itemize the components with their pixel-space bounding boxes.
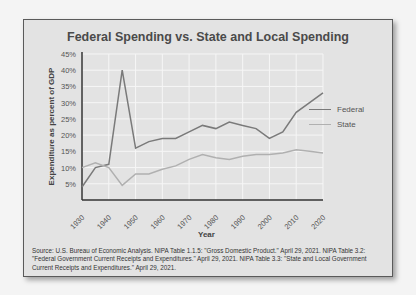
x-tick-label: 2010 xyxy=(282,213,300,231)
x-tick-label: 2000 xyxy=(256,213,274,231)
legend: Federal State xyxy=(309,102,364,132)
x-tick-label: 1950 xyxy=(122,213,140,231)
legend-label: State xyxy=(337,120,356,129)
x-tick-label: 1930 xyxy=(68,213,86,231)
x-tick-label: 1970 xyxy=(175,213,193,231)
y-tick-label: 30% xyxy=(61,99,76,108)
x-tick-label: 1960 xyxy=(149,213,167,231)
series-line-federal xyxy=(82,70,323,187)
x-tick-label: 1990 xyxy=(229,213,247,231)
y-tick-label: 15% xyxy=(61,147,76,156)
x-tick-label: 2020 xyxy=(309,213,327,231)
y-tick-label: 20% xyxy=(61,131,76,140)
legend-swatch xyxy=(309,109,331,111)
y-axis-label: Expenditure as percent of GDP xyxy=(47,57,56,197)
y-tick-label: 35% xyxy=(61,82,76,91)
legend-swatch xyxy=(309,124,331,126)
y-tick-label: 45% xyxy=(61,50,76,59)
y-tick-label: 10% xyxy=(61,164,76,173)
legend-label: Federal xyxy=(337,105,364,114)
y-tick-label: 40% xyxy=(61,66,76,75)
legend-item-state: State xyxy=(309,117,364,132)
x-tick-label: 1940 xyxy=(95,213,113,231)
source-note: Source: U.S. Bureau of Economic Analysis… xyxy=(32,247,387,272)
legend-item-federal: Federal xyxy=(309,102,364,117)
y-tick-label: 5% xyxy=(65,180,76,189)
chart-panel: Federal Spending vs. State and Local Spe… xyxy=(23,19,393,277)
x-tick-label: 1980 xyxy=(202,213,220,231)
x-axis-label: Year xyxy=(198,230,215,239)
y-tick-label: 25% xyxy=(61,115,76,124)
